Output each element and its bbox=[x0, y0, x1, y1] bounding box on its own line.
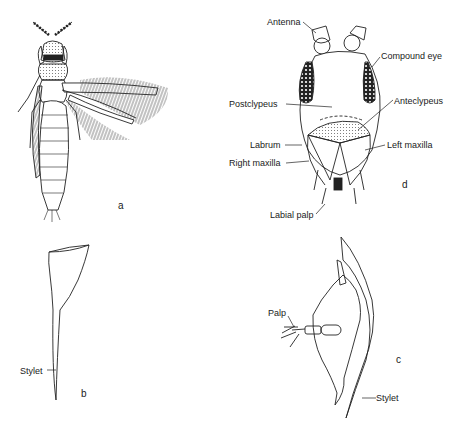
label-antenna: Antenna bbox=[267, 17, 301, 27]
label-labrum: Labrum bbox=[250, 140, 281, 150]
maxillary-palp bbox=[281, 325, 341, 347]
panel-b-stylet-drawing bbox=[49, 245, 89, 400]
stylet-base bbox=[337, 260, 346, 285]
abdomen bbox=[39, 101, 68, 210]
panel-letter-b: b bbox=[81, 389, 87, 399]
maxillary-stylet bbox=[341, 237, 374, 418]
leader-palp bbox=[288, 316, 294, 327]
label-left-maxilla: Left maxilla bbox=[387, 140, 433, 150]
label-palp: Palp bbox=[268, 308, 286, 318]
label-labial-palp: Labial palp bbox=[270, 210, 314, 220]
label-anteclypeus: Anteclypeus bbox=[394, 96, 443, 106]
maxillary-lobe bbox=[313, 275, 361, 405]
antenna-right bbox=[55, 22, 72, 35]
figure-canvas bbox=[0, 0, 459, 427]
antennal-socket-left bbox=[314, 38, 330, 54]
abdomen-tip-setae bbox=[44, 210, 60, 222]
label-stylet-b: Stylet bbox=[20, 366, 43, 376]
label-compound-eye: Compound eye bbox=[381, 51, 442, 61]
compound-eye-left bbox=[299, 62, 314, 103]
head-band bbox=[44, 55, 63, 60]
label-right-maxilla: Right maxilla bbox=[229, 158, 281, 168]
label-postclypeus: Postclypeus bbox=[229, 99, 278, 109]
pronotum bbox=[38, 64, 67, 80]
panel-letter-c: c bbox=[396, 355, 401, 365]
label-stylet-c: Stylet bbox=[376, 393, 399, 403]
panel-a-thrips-drawing bbox=[18, 22, 168, 222]
panel-letter-a: a bbox=[118, 201, 124, 211]
leader-labial-palp bbox=[316, 204, 325, 214]
mouthcone-tip bbox=[334, 178, 342, 190]
antennal-socket-right bbox=[344, 35, 360, 51]
panel-letter-d: d bbox=[402, 180, 408, 190]
panel-c-maxilla-drawing bbox=[281, 237, 374, 418]
antenna-left bbox=[33, 22, 49, 35]
leader-compound-eye bbox=[372, 57, 380, 67]
panel-d-head-drawing bbox=[299, 26, 380, 204]
leader-right-maxilla bbox=[286, 161, 309, 163]
compound-eye-right bbox=[363, 62, 375, 103]
leader-antenna bbox=[303, 22, 316, 33]
